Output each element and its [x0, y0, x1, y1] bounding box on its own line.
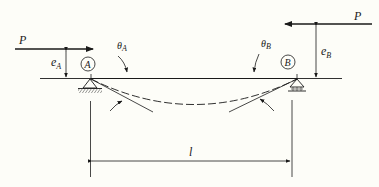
tangent-rotation-arrow-b	[260, 99, 274, 111]
rotation-arrow-b	[254, 54, 259, 72]
rotation-arrow-a	[118, 56, 127, 72]
beam-diagram: P eA A P eB B θA θB	[0, 0, 379, 187]
roller-support-right	[288, 79, 306, 91]
rotation-label-a: θA	[117, 40, 127, 53]
deflected-shape	[91, 79, 297, 105]
load-label-right: P	[353, 9, 362, 23]
eccentricity-label-right: eB	[321, 44, 331, 60]
tangent-rotation-arrow-a	[110, 101, 122, 111]
rotation-label-b: θB	[261, 38, 271, 51]
tangent-line-b	[229, 79, 297, 112]
tangent-line-a	[91, 79, 153, 112]
beam	[91, 74, 297, 79]
node-b-label: B	[285, 57, 291, 68]
span-dimension	[91, 100, 293, 177]
node-a-label: A	[84, 59, 92, 70]
eccentricity-dimension-right	[296, 26, 342, 79]
diagram-canvas: P eA A P eB B θA θB	[0, 0, 379, 187]
load-label-left: P	[18, 33, 27, 47]
pin-support-left	[78, 79, 102, 93]
eccentricity-label-left: eA	[51, 55, 61, 71]
span-label: l	[189, 145, 193, 159]
